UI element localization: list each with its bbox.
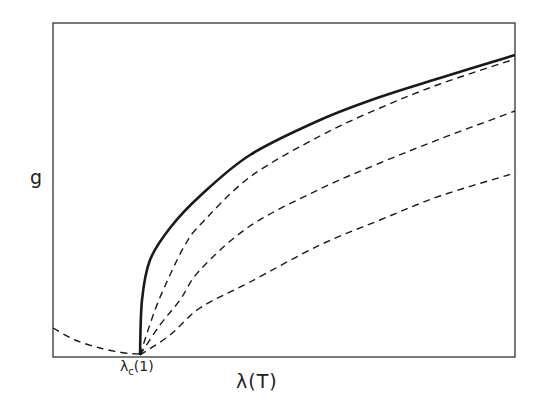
plot-frame: [53, 23, 515, 357]
y-axis-label: g: [30, 166, 42, 188]
plot-area: [0, 0, 542, 412]
chart-figure: g λ(T) λc(1): [0, 0, 542, 412]
curves: [53, 55, 515, 355]
curve-dashed-2: [140, 111, 515, 355]
critical-point-label: λc(1): [120, 358, 154, 377]
x-axis-label: λ(T): [236, 370, 278, 392]
curve-dashed-lower-branch: [53, 328, 140, 354]
critical-arg: (1): [134, 358, 154, 374]
